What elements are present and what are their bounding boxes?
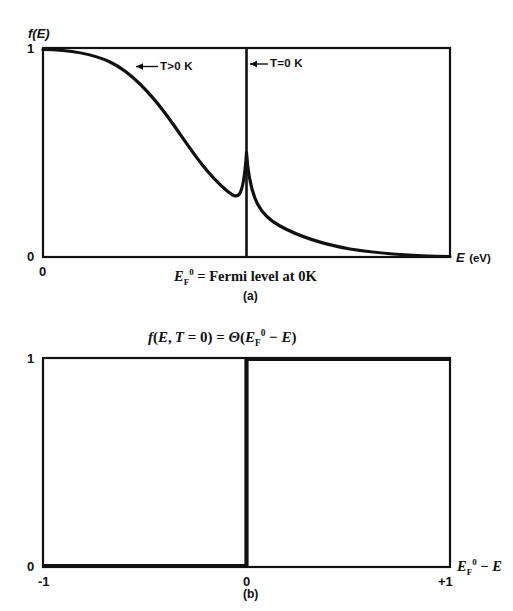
panel-b-x-tick-plus1: +1: [438, 575, 453, 588]
panel-a-plot-area: [0, 0, 513, 310]
figure-root: f(E) 1 0 0 E (eV) T>0 K T=0 K EF0 = Ferm…: [0, 0, 513, 611]
panel-a-y-axis-label: f(E): [28, 27, 50, 40]
annotation-arrowhead-t0k: [250, 61, 257, 68]
panel-a-caption: EF0 = Fermi level at 0K: [174, 268, 317, 287]
annotation-arrowhead-tgt0: [136, 63, 143, 70]
panel-b-x-axis-label: EF0 − E: [457, 558, 502, 577]
annotation-t-equals-0k: T=0 K: [270, 58, 303, 70]
panel-a-label: (a): [243, 290, 258, 302]
panel-b-plot-area: [0, 310, 513, 611]
panel-a-x-tick-0: 0: [39, 265, 46, 278]
chart-panel-a: f(E) 1 0 0 E (eV) T>0 K T=0 K EF0 = Ferm…: [0, 0, 513, 310]
annotation-t-greater-0k: T>0 K: [160, 61, 193, 73]
panel-a-y-tick-1: 1: [27, 42, 34, 55]
chart-panel-b: f(E, T = 0) = Θ(EF0 − E) 1 0 -1 0 +1 EF0…: [0, 310, 513, 611]
panel-b-x-tick-minus1: -1: [38, 575, 50, 588]
panel-b-label: (b): [243, 588, 258, 600]
panel-a-x-axis-label: E (eV): [456, 249, 491, 265]
panel-b-y-tick-0: 0: [27, 560, 34, 573]
panel-a-y-tick-0: 0: [27, 250, 34, 263]
panel-b-y-tick-1: 1: [27, 352, 34, 365]
